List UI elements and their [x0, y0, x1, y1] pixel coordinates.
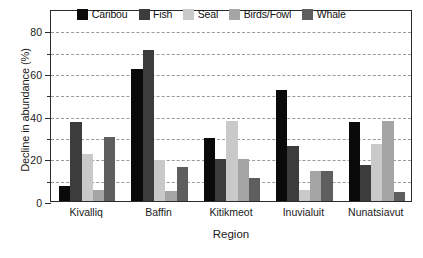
bar — [249, 178, 260, 201]
legend-item: Birds/Fowl — [229, 8, 291, 20]
plot-area: 020406080 — [50, 10, 412, 202]
y-tick-major — [45, 75, 51, 76]
bar — [59, 186, 70, 201]
gridline — [51, 96, 411, 97]
gridline — [51, 118, 411, 119]
bar — [382, 121, 393, 201]
bar — [299, 190, 310, 201]
x-tick-label: Inuvialuit — [283, 206, 324, 218]
bar — [287, 146, 298, 201]
y-axis-title: Decline in abundance (%) — [19, 15, 31, 205]
legend-item: Caribou — [77, 8, 127, 20]
bar — [321, 171, 332, 201]
y-tick-major — [45, 118, 51, 119]
bar — [204, 138, 215, 201]
y-tick-major — [45, 203, 51, 204]
x-tick-label: Kivalliq — [70, 206, 103, 218]
bar — [154, 160, 165, 201]
bar — [82, 154, 93, 201]
bar — [131, 69, 142, 201]
y-tick-label: 60 — [30, 69, 42, 81]
bar-chart-figure: Decline in abundance (%) 020406080 Kival… — [0, 0, 423, 258]
bar — [215, 159, 226, 201]
y-tick-label: 80 — [30, 26, 42, 38]
bar — [70, 122, 81, 201]
legend-swatch-icon — [302, 9, 313, 20]
bar — [349, 122, 360, 201]
bar — [165, 191, 176, 201]
legend-swatch-icon — [183, 9, 194, 20]
x-tick-label: Nunatsiavut — [348, 206, 403, 218]
bar — [93, 190, 104, 201]
bar — [177, 167, 188, 201]
bar — [310, 171, 321, 201]
legend-label: Birds/Fowl — [244, 8, 292, 20]
x-axis-title: Region — [50, 228, 412, 240]
y-tick-minor — [47, 54, 51, 55]
y-tick-label: 0 — [36, 197, 42, 209]
legend-label: Fish — [153, 8, 172, 20]
gridline — [51, 54, 411, 55]
y-tick-major — [45, 32, 51, 33]
legend-item: Whale — [302, 8, 346, 20]
gridline — [51, 32, 411, 33]
chart-legend: CaribouFishSealBirds/FowlWhale — [0, 8, 423, 20]
y-tick-minor — [47, 182, 51, 183]
legend-swatch-icon — [229, 9, 240, 20]
bar — [238, 159, 249, 201]
bar — [104, 137, 115, 201]
x-tick-label: Kitikmeot — [209, 206, 252, 218]
legend-label: Whale — [317, 8, 346, 20]
bar — [360, 165, 371, 201]
y-tick-label: 20 — [30, 154, 42, 166]
bar — [394, 192, 405, 201]
legend-label: Caribou — [92, 8, 128, 20]
bar — [276, 90, 287, 201]
y-tick-minor — [47, 96, 51, 97]
bar — [143, 50, 154, 201]
legend-item: Fish — [139, 8, 173, 20]
legend-label: Seal — [198, 8, 218, 20]
bar — [226, 121, 237, 201]
x-tick-label: Baffin — [145, 206, 172, 218]
legend-swatch-icon — [77, 9, 88, 20]
y-tick-label: 40 — [30, 112, 42, 124]
y-tick-minor — [47, 139, 51, 140]
y-tick-major — [45, 160, 51, 161]
legend-swatch-icon — [139, 9, 150, 20]
legend-item: Seal — [183, 8, 218, 20]
gridline — [51, 75, 411, 76]
bar — [371, 144, 382, 201]
